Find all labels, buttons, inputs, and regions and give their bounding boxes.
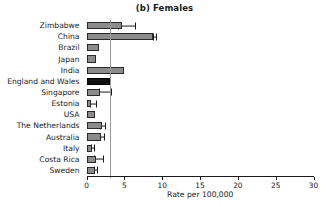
plot-area (87, 20, 314, 176)
x-tick-label-20: 20 (233, 181, 242, 190)
bar-row (87, 145, 314, 152)
reference-line (110, 20, 111, 178)
y-axis-category-labels: ZimbabweChinaBrazilJapanIndiaEngland and… (0, 20, 83, 176)
bar-row (87, 167, 314, 174)
y-axis-label-brazil: Brazil (58, 43, 79, 52)
x-tick-label-10: 10 (157, 181, 166, 190)
y-axis-label-singapore: Singapore (41, 88, 79, 97)
error-cap-high (97, 167, 98, 174)
error-cap-high (111, 89, 112, 96)
page-title: (b) Females (0, 3, 329, 13)
x-axis-title: Rate per 100,000 (87, 190, 315, 199)
chart-figure: (b) Females ZimbabweChinaBrazilJapanIndi… (0, 0, 329, 207)
bar-row (87, 78, 314, 85)
x-tick-label-25: 25 (271, 181, 280, 190)
error-cap-high (104, 133, 105, 140)
bar-row (87, 133, 314, 140)
bar-australia[interactable] (87, 133, 101, 140)
x-tick-label-0: 0 (84, 181, 89, 190)
bar-the-netherlands[interactable] (87, 122, 102, 129)
bar-england-and-wales[interactable] (87, 78, 110, 85)
bar-zimbabwe[interactable] (87, 22, 123, 29)
bar-japan[interactable] (87, 55, 96, 62)
x-tick-label-15: 15 (195, 181, 204, 190)
y-axis-label-japan: Japan (58, 55, 79, 64)
y-axis-label-the-netherlands: The Netherlands (17, 121, 80, 130)
error-cap-low (153, 33, 154, 40)
y-axis-label-australia: Australia (46, 133, 80, 142)
bar-usa[interactable] (87, 111, 95, 118)
bar-sweden[interactable] (87, 167, 95, 174)
y-axis-label-italy: Italy (63, 144, 79, 153)
error-cap-high (94, 145, 95, 152)
x-tick-10 (162, 177, 163, 180)
x-tick-label-30: 30 (309, 181, 318, 190)
error-cap-high (135, 22, 136, 29)
bar-row (87, 22, 314, 29)
error-cap-high (156, 33, 157, 40)
y-axis-label-sweden: Sweden (49, 166, 79, 175)
bar-row (87, 100, 314, 107)
y-axis-label-england-and-wales: England and Wales (7, 77, 79, 86)
x-tick-20 (238, 177, 239, 180)
bar-india[interactable] (87, 67, 125, 74)
x-tick-0 (87, 177, 88, 180)
bar-row (87, 111, 314, 118)
bar-row (87, 67, 314, 74)
bar-estonia[interactable] (87, 100, 92, 107)
bar-row (87, 122, 314, 129)
y-axis-label-india: India (61, 66, 80, 75)
bar-row (87, 55, 314, 62)
x-tick-25 (276, 177, 277, 180)
y-axis-label-china: China (58, 32, 80, 41)
error-cap-high (105, 122, 106, 129)
x-tick-15 (200, 177, 201, 180)
y-axis-label-usa: USA (64, 110, 80, 119)
x-tick-5 (124, 177, 125, 180)
bar-brazil[interactable] (87, 44, 100, 51)
bar-row (87, 33, 314, 40)
x-tick-30 (314, 177, 315, 180)
bar-costa-rica[interactable] (87, 156, 96, 163)
x-tick-label-5: 5 (122, 181, 127, 190)
x-axis: 051015202530 (87, 176, 315, 177)
bar-row (87, 89, 314, 96)
bar-row (87, 44, 314, 51)
y-axis-label-zimbabwe: Zimbabwe (40, 21, 80, 30)
bar-italy[interactable] (87, 145, 92, 152)
error-cap-high (96, 100, 97, 107)
y-axis-label-estonia: Estonia (52, 99, 80, 108)
bar-china[interactable] (87, 33, 154, 40)
bar-singapore[interactable] (87, 89, 101, 96)
y-axis-label-costa-rica: Costa Rica (39, 155, 79, 164)
error-cap-high (103, 156, 104, 163)
bar-row (87, 156, 314, 163)
